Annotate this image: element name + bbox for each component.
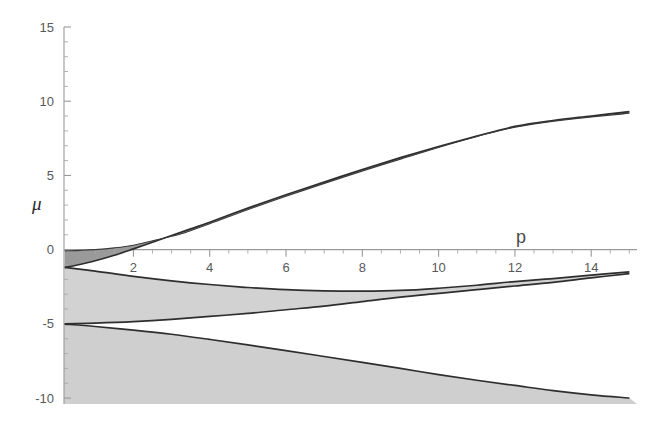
y-tick-label: 0	[47, 242, 54, 257]
stability-diagram-plot: 151050-5-102468101214 μ p	[0, 0, 667, 428]
y-tick-label: -10	[35, 391, 54, 406]
y-tick-label: 10	[40, 94, 54, 109]
x-tick-label: 10	[431, 260, 445, 275]
y-tick-label: 5	[47, 168, 54, 183]
y-axis-title: μ	[31, 193, 42, 214]
y-tick-label: 15	[40, 20, 54, 35]
x-tick-label: 6	[282, 260, 289, 275]
y-tick-label: -5	[42, 316, 54, 331]
x-tick-label: 14	[584, 260, 598, 275]
x-axis-title: p	[516, 227, 526, 247]
x-tick-label: 4	[206, 260, 213, 275]
x-tick-label: 8	[359, 260, 366, 275]
chart-figure: 151050-5-102468101214 μ p	[0, 0, 667, 428]
x-tick-label: 12	[508, 260, 522, 275]
x-tick-label: 2	[130, 260, 137, 275]
